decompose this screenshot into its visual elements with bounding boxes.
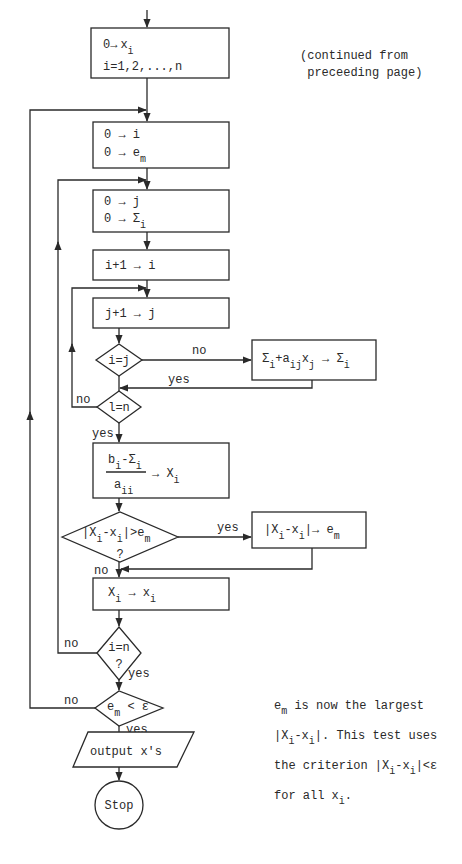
- arrow-accum-back: [120, 380, 312, 388]
- label-ij-yes: yes: [168, 373, 190, 387]
- svg-text:i+1 → i: i+1 → i: [105, 259, 155, 273]
- label-in-yes: yes: [128, 667, 150, 681]
- svg-text:0 → i: 0 → i: [104, 128, 140, 142]
- node-stop: Stop: [95, 781, 143, 829]
- label-conv-no: no: [64, 694, 78, 708]
- svg-text:i=j: i=j: [108, 354, 130, 368]
- label-ln-no: no: [76, 393, 90, 407]
- label-ln-yes: yes: [92, 427, 114, 441]
- label-ij-no: no: [192, 344, 206, 358]
- decision-l-eq-n: l=n: [97, 391, 141, 423]
- decision-i-eq-j: i=j: [96, 344, 142, 376]
- node-init-i-em: 0 → i 0 → em: [93, 122, 229, 168]
- decision-diff-gt-em: |Xi-xi|>em ?: [62, 512, 178, 562]
- svg-text:?: ?: [116, 548, 123, 562]
- node-inc-i: i+1 → i: [93, 250, 229, 280]
- label-diff-yes: yes: [217, 521, 239, 535]
- label-diff-no: no: [94, 564, 108, 578]
- node-init-x: 0→xi i=1,2,...,n: [91, 28, 229, 78]
- svg-text:l=n: l=n: [108, 401, 130, 415]
- label-in-no: no: [64, 637, 78, 651]
- continued-note: (continued from preceeding page): [300, 48, 422, 82]
- node-accumulate: Σi+aijxj → Σi: [252, 340, 376, 380]
- node-update-em: |Xi-xi|→ em: [252, 512, 366, 548]
- node-output: output x's: [73, 732, 194, 767]
- svg-text:output x's: output x's: [90, 745, 162, 759]
- node-inc-j: j+1 → j: [93, 298, 229, 328]
- decision-em-lt-eps: em < ε: [95, 691, 163, 726]
- svg-text:0 → j: 0 → j: [104, 195, 140, 209]
- svg-text:i=1,2,...,n: i=1,2,...,n: [103, 60, 182, 74]
- svg-text:i=n: i=n: [108, 641, 130, 655]
- arrow-em-back: [121, 548, 312, 569]
- node-assign-x: Xi → xi: [93, 578, 229, 610]
- node-init-j-sum: 0 → j 0 → Σi: [93, 190, 229, 232]
- node-compute-X: bi-Σi aii → Xi: [93, 443, 229, 498]
- side-note: em is now the largest |Xi-xi|. This test…: [274, 694, 459, 814]
- svg-text:?: ?: [115, 658, 122, 672]
- svg-text:j+1 → j: j+1 → j: [105, 307, 155, 321]
- svg-text:Stop: Stop: [105, 799, 134, 813]
